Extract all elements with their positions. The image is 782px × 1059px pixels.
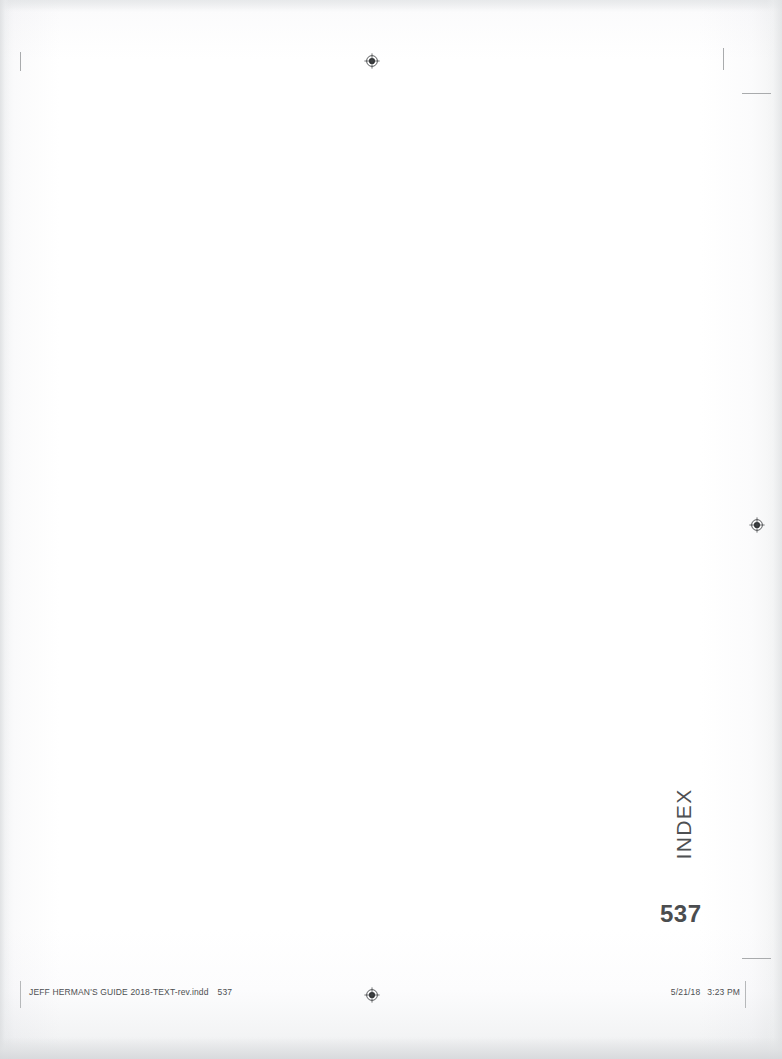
scan-edge-top bbox=[0, 0, 782, 12]
scan-edge-right bbox=[766, 0, 782, 1059]
page-folio-number: 537 bbox=[660, 900, 720, 928]
scan-edge-bottom bbox=[0, 1037, 782, 1059]
slug-date: 5/21/18 bbox=[671, 987, 700, 997]
slug-filename: JEFF HERMAN'S GUIDE 2018-TEXT-rev.indd bbox=[29, 987, 209, 997]
scan-edge-left bbox=[0, 0, 10, 1059]
crop-mark-top-right-horizontal bbox=[742, 93, 771, 94]
slug-timestamp-block: 5/21/183:23 PM bbox=[648, 987, 740, 997]
registration-mark-bottom bbox=[364, 987, 380, 1003]
slug-page-number: 537 bbox=[218, 987, 233, 997]
section-tab-index: INDEX bbox=[664, 776, 704, 872]
crop-mark-top-right-vertical bbox=[723, 48, 724, 70]
slug-rule-right bbox=[745, 981, 746, 1008]
registration-mark-top bbox=[364, 53, 380, 69]
slug-rule-left bbox=[20, 981, 21, 1008]
scanned-book-page: INDEX 537 JEFF HERMAN'S GUIDE 2018-TEXT-… bbox=[0, 0, 782, 1059]
crop-mark-top-left-vertical bbox=[20, 52, 21, 71]
crop-mark-bottom-right-horizontal bbox=[742, 958, 771, 959]
section-tab-label: INDEX bbox=[672, 788, 696, 859]
slug-time: 3:23 PM bbox=[707, 987, 740, 997]
registration-mark-right bbox=[749, 517, 765, 533]
slug-filename-block: JEFF HERMAN'S GUIDE 2018-TEXT-rev.indd53… bbox=[29, 987, 232, 997]
